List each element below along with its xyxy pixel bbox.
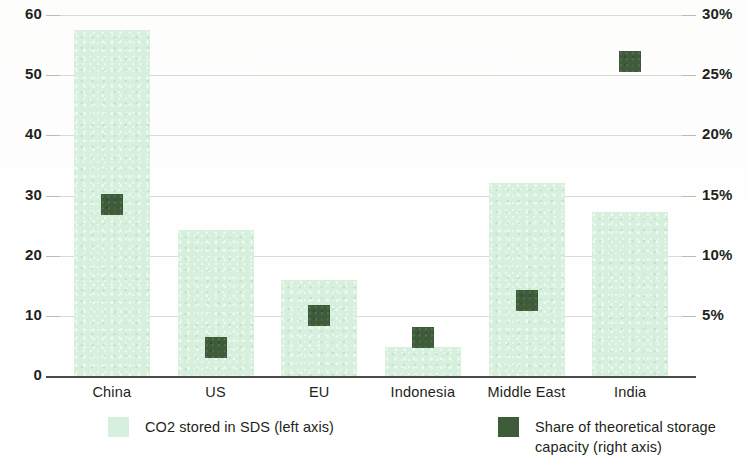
x-axis-baseline	[46, 376, 696, 378]
left-axis-tick-mark	[46, 75, 60, 76]
category-label: US	[205, 384, 226, 400]
right-axis-tick-mark	[682, 316, 696, 317]
bar-texture	[592, 212, 668, 376]
chart-legend: CO2 stored in SDS (left axis) Share of t…	[0, 412, 748, 453]
right-axis-tick-label: 15%	[702, 186, 748, 203]
legend-swatch-dark-green-square	[498, 417, 519, 437]
right-axis-tick-label: 20%	[702, 125, 748, 142]
left-axis-tick-mark	[46, 196, 60, 197]
left-axis-tick-label: 40	[2, 125, 42, 142]
gridline	[60, 196, 682, 197]
left-axis-tick-mark	[46, 256, 60, 257]
right-axis-tick-label: 10%	[702, 246, 748, 263]
left-axis-tick-label: 10	[2, 306, 42, 323]
data-marker	[412, 327, 434, 348]
marker-texture	[516, 290, 538, 311]
category-label: Indonesia	[390, 384, 455, 400]
left-axis-tick-label: 30	[2, 186, 42, 203]
bar-texture	[281, 280, 357, 376]
left-axis-tick-mark	[46, 135, 60, 136]
right-axis-tick-mark	[682, 196, 696, 197]
bar	[592, 212, 668, 376]
marker-texture	[308, 305, 330, 326]
left-axis-tick-label: 20	[2, 246, 42, 263]
bar	[281, 280, 357, 376]
marker-texture	[205, 337, 227, 358]
gridline	[60, 135, 682, 136]
category-label: EU	[309, 384, 330, 400]
bar	[385, 347, 461, 376]
legend-item-co2-stored: CO2 stored in SDS (left axis)	[108, 417, 334, 437]
data-marker	[101, 194, 123, 215]
left-axis-tick-mark	[46, 316, 60, 317]
right-axis-tick-mark	[682, 75, 696, 76]
left-axis-tick-mark	[46, 15, 60, 16]
data-marker	[308, 305, 330, 326]
data-marker	[516, 290, 538, 311]
gridline	[60, 15, 682, 16]
legend-label-share-of-capacity: Share of theoretical storage capacity (r…	[535, 417, 716, 457]
left-axis-tick-label: 50	[2, 65, 42, 82]
bar	[489, 183, 565, 376]
category-label: India	[614, 384, 646, 400]
category-label: China	[92, 384, 131, 400]
legend-label-co2-stored: CO2 stored in SDS (left axis)	[145, 417, 334, 437]
right-axis-tick-mark	[682, 256, 696, 257]
marker-texture	[101, 194, 123, 215]
bar-texture	[489, 183, 565, 376]
marker-texture	[619, 51, 641, 72]
data-marker	[205, 337, 227, 358]
right-axis-tick-mark	[682, 15, 696, 16]
gridline	[60, 256, 682, 257]
marker-texture	[412, 327, 434, 348]
right-axis-tick-label: 25%	[702, 65, 748, 82]
gridline	[60, 75, 682, 76]
legend-item-share-of-capacity: Share of theoretical storage capacity (r…	[498, 417, 716, 457]
left-axis-tick-label: 0	[2, 366, 42, 383]
right-axis-tick-label: 5%	[702, 306, 748, 323]
right-axis-tick-mark	[682, 135, 696, 136]
left-axis-tick-label: 60	[2, 5, 42, 22]
legend-swatch-light-green-square	[108, 417, 129, 437]
gridline	[60, 316, 682, 317]
bar-texture	[385, 347, 461, 376]
data-marker	[619, 51, 641, 72]
right-axis-tick-label: 30%	[702, 5, 748, 22]
category-label: Middle East	[488, 384, 566, 400]
